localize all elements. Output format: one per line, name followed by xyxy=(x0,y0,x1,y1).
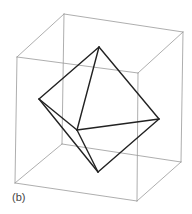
cube-edge xyxy=(181,32,183,162)
cube-edge xyxy=(15,144,62,183)
octahedron-edge xyxy=(39,47,99,99)
cube-edge xyxy=(137,162,181,201)
octahedron-edge xyxy=(77,119,159,130)
cube-octahedron-diagram xyxy=(0,0,192,214)
octahedron-edge xyxy=(99,47,159,119)
cube-edge xyxy=(17,14,64,57)
octahedron-edge xyxy=(39,99,77,130)
cube-edge xyxy=(15,57,17,183)
octahedron-edge xyxy=(98,119,159,172)
figure-label: (b) xyxy=(12,191,25,203)
cube-edge xyxy=(62,144,181,162)
cube-edge xyxy=(138,32,183,73)
figure-canvas: (b) xyxy=(0,0,192,214)
octahedron-edge xyxy=(39,99,98,172)
octahedron-edge xyxy=(77,47,99,130)
cube-edge xyxy=(15,183,137,201)
cube-edge xyxy=(64,14,183,32)
